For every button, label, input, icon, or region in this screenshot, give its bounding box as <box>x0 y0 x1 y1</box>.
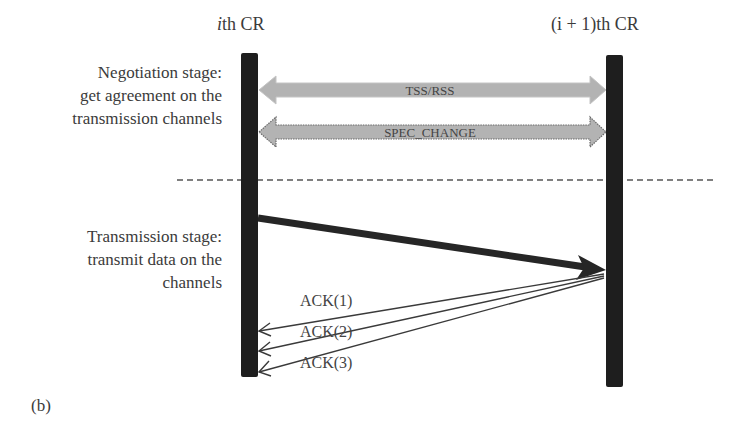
data-transmission-arrow <box>258 218 606 280</box>
ack-3-label: ACK(3) <box>300 354 352 372</box>
tss-rss-label: TSS/RSS <box>405 83 454 98</box>
sequence-diagram: TSS/RSS SPEC_CHANGE ACK(1) ACK(2) ACK(3) <box>0 0 739 430</box>
ack-1-label: ACK(1) <box>300 292 352 310</box>
spec-change-label: SPEC_CHANGE <box>384 125 476 140</box>
ack-2-label: ACK(2) <box>300 323 352 341</box>
right-lifeline <box>606 55 623 387</box>
tss-rss-arrow: TSS/RSS <box>259 76 606 104</box>
left-lifeline <box>241 53 258 377</box>
spec-change-arrow: SPEC_CHANGE <box>259 117 606 147</box>
